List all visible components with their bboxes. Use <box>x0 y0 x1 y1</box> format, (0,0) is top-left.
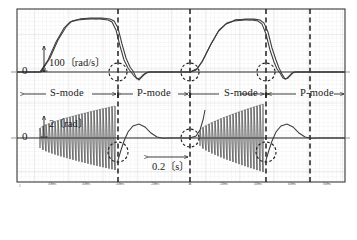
mode-label-p-1: P-mode <box>137 88 171 99</box>
mode-label-s-2: S-mode <box>224 88 258 99</box>
scale-label-velocity: 100〔rad/s〕 <box>49 58 105 69</box>
x-tick-label: -600ms <box>82 184 91 187</box>
x-tick-label: 0s <box>189 184 192 187</box>
zero-label-top: 0 <box>22 65 28 76</box>
x-tick-label: -800ms <box>48 184 57 187</box>
time-span-label: 0.2〔s〕 <box>152 162 189 173</box>
zero-label-bottom: 0 <box>22 131 28 142</box>
mode-label-s-1: S-mode <box>50 88 84 99</box>
x-tick-label: 800ms <box>323 184 331 187</box>
corner-mark: 1 <box>19 184 21 188</box>
scale-label-angle: 2〔rad〕 <box>49 119 88 130</box>
x-tick-label: 400ms <box>254 184 262 187</box>
x-tick-label: 200ms <box>220 184 228 187</box>
x-tick-label: 600ms <box>288 184 296 187</box>
x-tick-label: -200ms <box>151 184 160 187</box>
x-tick-label: -400ms <box>116 184 125 187</box>
mode-label-p-2: P-mode <box>300 88 334 99</box>
